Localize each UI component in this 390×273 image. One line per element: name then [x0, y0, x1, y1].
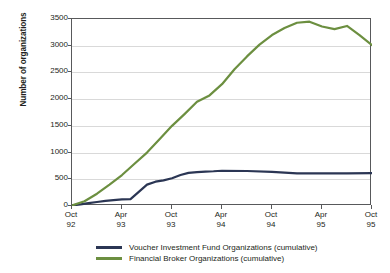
y-axis-tick-label: 3500 [28, 13, 68, 22]
x-axis-tick-label: Apr95 [298, 210, 344, 229]
x-axis-tick-mark [271, 205, 272, 209]
series-line [72, 171, 372, 206]
legend-label: Financial Broker Organizations (cumulati… [129, 254, 284, 263]
x-tick-year: 95 [298, 220, 344, 230]
x-axis-tick-mark [171, 205, 172, 209]
x-tick-month: Oct [48, 210, 94, 220]
x-axis-tick-label: Oct93 [148, 210, 194, 229]
x-tick-month: Apr [98, 210, 144, 220]
x-axis-tick-label: Oct95 [348, 210, 390, 229]
series-line [72, 22, 372, 206]
x-tick-month: Apr [298, 210, 344, 220]
x-axis-tick-mark [371, 205, 372, 209]
y-axis-tick-label: 500 [28, 173, 68, 182]
x-tick-month: Oct [348, 210, 390, 220]
x-axis-tick-mark [121, 205, 122, 209]
x-tick-month: Oct [148, 210, 194, 220]
y-axis-tick-label: 2000 [28, 93, 68, 102]
legend-swatch-icon [96, 246, 122, 249]
x-tick-month: Apr [198, 210, 244, 220]
plot-area [71, 18, 371, 205]
x-tick-year: 92 [48, 220, 94, 230]
series-lines [72, 19, 372, 206]
x-tick-year: 93 [98, 220, 144, 230]
chart-legend: Voucher Investment Fund Organizations (c… [96, 242, 318, 264]
y-axis-tick-label: 0 [28, 200, 68, 209]
x-axis-tick-mark [71, 205, 72, 209]
x-axis-tick-label: Apr93 [98, 210, 144, 229]
y-axis-tick-label: 1000 [28, 147, 68, 156]
x-axis-tick-label: Oct92 [48, 210, 94, 229]
legend-item[interactable]: Financial Broker Organizations (cumulati… [96, 253, 318, 264]
x-axis-tick-mark [221, 205, 222, 209]
x-tick-year: 95 [348, 220, 390, 230]
legend-swatch-icon [96, 257, 122, 260]
y-axis-title: Number of organizations [19, 0, 28, 135]
x-tick-year: 93 [148, 220, 194, 230]
legend-label: Voucher Investment Fund Organizations (c… [129, 243, 318, 252]
chart-container: Number of organizations 0500100015002000… [0, 0, 390, 273]
legend-item[interactable]: Voucher Investment Fund Organizations (c… [96, 242, 318, 253]
x-tick-year: 94 [198, 220, 244, 230]
y-axis-tick-label: 3000 [28, 40, 68, 49]
x-tick-month: Oct [248, 210, 294, 220]
y-axis-tick-label: 1500 [28, 120, 68, 129]
x-axis-tick-label: Oct94 [248, 210, 294, 229]
y-axis-tick-label: 2500 [28, 66, 68, 75]
x-axis-tick-mark [321, 205, 322, 209]
x-tick-year: 94 [248, 220, 294, 230]
x-axis-tick-label: Apr94 [198, 210, 244, 229]
